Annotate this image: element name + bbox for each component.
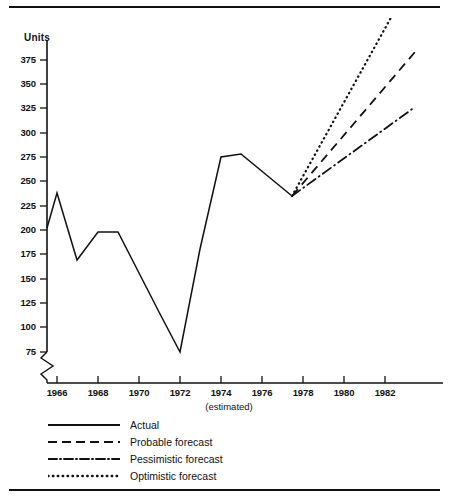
x-tick-label-1966: 1966 xyxy=(37,387,77,398)
chart-page: Units 375 350 325 300 275 250 225 200 17… xyxy=(0,0,458,504)
chart-plot-area: Units 375 350 325 300 275 250 225 200 17… xyxy=(0,18,458,388)
x-tick-label-1982: 1982 xyxy=(365,387,405,398)
x-tick-label-1976: 1976 xyxy=(242,387,282,398)
legend-label-optimistic-forecast: Optimistic forecast xyxy=(130,470,216,482)
y-axis-break-icon xyxy=(41,352,53,383)
bottom-horizontal-rule xyxy=(9,489,440,491)
y-tick-label-75: 75 xyxy=(10,346,36,357)
legend-swatch-dashed-icon xyxy=(48,436,120,448)
line-chart-svg xyxy=(0,18,458,388)
legend-swatch-dotted-icon xyxy=(48,470,120,482)
y-tick-label-250: 250 xyxy=(10,175,36,186)
legend-item-probable-forecast: Probable forecast xyxy=(48,433,378,450)
legend-label-pessimistic-forecast: Pessimistic forecast xyxy=(130,453,223,465)
y-tick-label-175: 175 xyxy=(10,248,36,259)
y-tick-label-225: 225 xyxy=(10,200,36,211)
x-tick-label-1968: 1968 xyxy=(78,387,118,398)
y-axis-title: Units xyxy=(24,32,50,43)
x-axis-ticks xyxy=(57,376,385,383)
x-tick-label-1970: 1970 xyxy=(119,387,159,398)
x-tick-label-1974: 1974 xyxy=(201,387,241,398)
legend-label-probable-forecast: Probable forecast xyxy=(130,436,212,448)
series-optimistic-forecast-line xyxy=(292,18,393,196)
legend-swatch-solid-icon xyxy=(48,419,120,431)
y-tick-label-350: 350 xyxy=(10,78,36,89)
y-tick-label-100: 100 xyxy=(10,321,36,332)
y-tick-label-275: 275 xyxy=(10,151,36,162)
legend-swatch-dash-dot-icon xyxy=(48,453,120,465)
legend-item-actual: Actual xyxy=(48,416,378,433)
y-tick-label-125: 125 xyxy=(10,297,36,308)
y-tick-label-150: 150 xyxy=(10,273,36,284)
x-tick-label-1980: 1980 xyxy=(324,387,364,398)
x-tick-label-1978: 1978 xyxy=(283,387,323,398)
y-axis-ticks xyxy=(40,60,47,352)
chart-legend: Actual Probable forecast Pessimistic for… xyxy=(48,416,378,484)
x-axis-estimated-note: (estimated) xyxy=(0,401,458,412)
y-tick-label-375: 375 xyxy=(10,54,36,65)
y-tick-label-300: 300 xyxy=(10,127,36,138)
x-tick-label-1972: 1972 xyxy=(160,387,200,398)
legend-item-optimistic-forecast: Optimistic forecast xyxy=(48,467,378,484)
series-actual-line xyxy=(47,154,292,352)
y-tick-label-325: 325 xyxy=(10,102,36,113)
top-horizontal-rule xyxy=(9,6,440,8)
legend-label-actual: Actual xyxy=(130,419,159,431)
legend-item-pessimistic-forecast: Pessimistic forecast xyxy=(48,450,378,467)
series-probable-forecast-line xyxy=(292,52,415,196)
series-pessimistic-forecast-line xyxy=(292,107,415,196)
y-tick-label-200: 200 xyxy=(10,224,36,235)
